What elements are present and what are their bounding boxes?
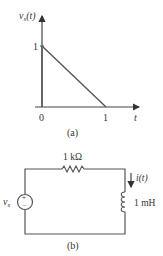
caption-a: (a) [67, 127, 78, 139]
resistor-symbol [62, 166, 86, 172]
source-minus: − [23, 202, 27, 210]
y-axis-label: vs(t) [19, 10, 36, 23]
x-tick-label-1: 1 [103, 112, 108, 123]
wire-top-left [25, 169, 62, 195]
waveform-plot: vs(t) 1 0 1 t (a) [19, 10, 139, 139]
resistor-label: 1 kΩ [63, 152, 82, 162]
waveform-line [42, 46, 106, 107]
inductor-symbol [121, 192, 125, 214]
circuit: 1 kΩ 1 mH i(t) + − vs (b) [3, 152, 156, 252]
inductor-label: 1 mH [134, 198, 156, 208]
y-tick-label-1: 1 [33, 41, 38, 52]
figure: vs(t) 1 0 1 t (a) 1 kΩ 1 mH i(t) + − vs … [0, 0, 163, 256]
source-label: vs [3, 196, 10, 209]
current-label: i(t) [136, 173, 148, 184]
x-axis-label: t [134, 112, 137, 123]
caption-b: (b) [67, 240, 79, 252]
x-tick-label-0: 0 [39, 112, 44, 123]
wire-top-right [86, 169, 125, 192]
wire-bottom [25, 209, 125, 234]
source-plus: + [22, 194, 26, 202]
